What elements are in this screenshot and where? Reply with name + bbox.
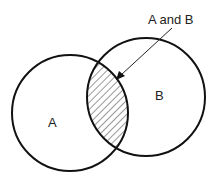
intersection-label: A and B [148, 12, 194, 27]
arrow-line [121, 28, 172, 75]
set-b-label: B [155, 88, 164, 103]
venn-diagram: A and B A B [0, 0, 215, 181]
set-a-label: A [48, 115, 57, 130]
